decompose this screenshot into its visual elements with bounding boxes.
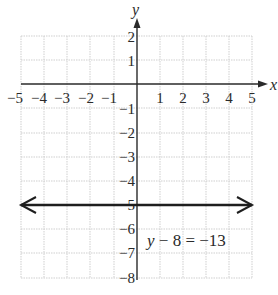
y-axis-arrow-icon [134,18,141,28]
svg-text:−5: −5 [7,90,23,106]
y-axis-label: y [130,1,140,19]
svg-text:2: 2 [179,90,187,106]
svg-text:1: 1 [128,53,136,69]
svg-text:−1: −1 [119,101,135,117]
svg-text:−2: −2 [119,125,135,141]
x-axis-label: x [269,76,277,93]
svg-text:2: 2 [128,29,136,45]
svg-text:1: 1 [156,90,164,106]
svg-text:−4: −4 [119,173,135,189]
svg-text:−6: −6 [119,221,135,237]
svg-text:−8: −8 [119,270,135,286]
x-axis-arrow-icon [258,81,268,88]
coordinate-graph: x y −5 −4 −3 −2 −1 1 2 3 4 5 2 1 −1 −2 −… [0,0,278,295]
equation-label: y − 8 = −13 [145,231,226,250]
y-tick-labels: 2 1 −1 −2 −3 −4 −5 −6 −7 −8 [119,29,135,286]
svg-text:−3: −3 [119,149,135,165]
svg-text:−3: −3 [54,90,70,106]
svg-text:−1: −1 [101,90,117,106]
svg-text:4: 4 [225,90,233,106]
svg-text:−2: −2 [78,90,94,106]
svg-text:−4: −4 [31,90,47,106]
svg-text:3: 3 [202,90,210,106]
svg-text:−7: −7 [119,245,135,261]
svg-text:5: 5 [248,90,256,106]
